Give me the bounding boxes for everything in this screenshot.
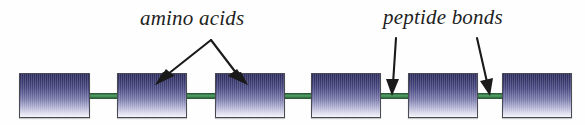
peptide-bond-3	[283, 93, 313, 99]
peptide-bond-arrow-left-icon	[386, 38, 399, 96]
protein-chain-diagram: amino acids peptide bonds	[0, 0, 585, 125]
amino-acid-6	[502, 73, 572, 118]
amino-acids-label: amino acids	[140, 6, 244, 31]
amino-acid-4	[311, 73, 381, 118]
amino-acid-2	[117, 73, 187, 118]
amino-acid-5	[408, 73, 478, 118]
peptide-bond-5	[476, 93, 504, 99]
amino-acid-3	[215, 73, 285, 118]
peptide-bond-arrow-right-icon	[477, 38, 493, 96]
peptide-bonds-label: peptide bonds	[383, 5, 503, 30]
peptide-bond-4	[379, 93, 410, 99]
peptide-bond-1	[88, 93, 119, 99]
amino-acid-1	[19, 73, 90, 118]
peptide-bond-2	[185, 93, 217, 99]
